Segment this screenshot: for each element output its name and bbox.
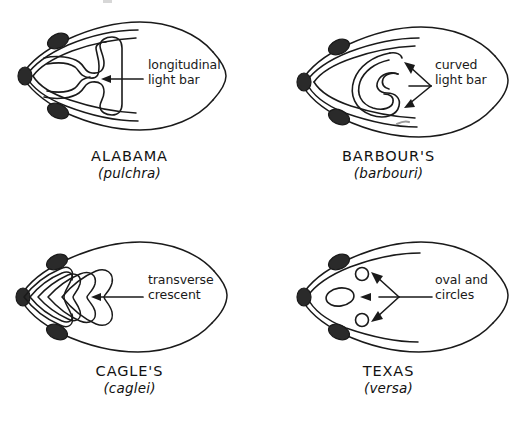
alabama-head-figure bbox=[0, 0, 259, 216]
annotation-line-2: crescent bbox=[148, 287, 201, 302]
common-name-cagles: CAGLE'S bbox=[0, 363, 259, 379]
barbours-head-figure bbox=[259, 0, 518, 216]
head-inner-upper bbox=[307, 253, 420, 297]
annotation-line-2: light bar bbox=[148, 72, 200, 87]
common-name-barbours: BARBOUR'S bbox=[259, 148, 518, 164]
snout-tip-blob bbox=[16, 288, 30, 306]
snout-tip-blob bbox=[297, 73, 311, 91]
latin-name-barbours: (barbouri) bbox=[259, 165, 518, 181]
annotation-arrow-double bbox=[404, 62, 431, 108]
annotation-alabama: longitudinal light bar bbox=[148, 58, 221, 88]
annotation-line-1: oval and bbox=[435, 272, 488, 287]
upper-circle bbox=[356, 268, 369, 281]
panel-alabama: longitudinal light bar bbox=[0, 0, 259, 216]
common-name-texas: TEXAS bbox=[259, 363, 518, 379]
eye-lower bbox=[326, 321, 352, 343]
secondary-flick-mark bbox=[397, 122, 409, 124]
head-outline-rear bbox=[493, 56, 508, 108]
latin-name-cagles: (caglei) bbox=[0, 380, 259, 396]
caption-texas: TEXAS (versa) bbox=[259, 363, 518, 396]
annotation-line-2: light bar bbox=[435, 72, 487, 87]
caption-alabama: ALABAMA (pulchra) bbox=[0, 148, 259, 181]
head-outline-lower bbox=[301, 297, 493, 352]
common-name-alabama: ALABAMA bbox=[0, 148, 259, 164]
panel-barbours: curved light bar bbox=[259, 0, 518, 216]
panel-texas: oval and circles bbox=[259, 217, 518, 433]
head-outline-rear bbox=[212, 271, 227, 323]
eye-lower bbox=[326, 106, 352, 128]
panel-cagles: transverse crescent bbox=[0, 217, 259, 433]
eye-blobs bbox=[297, 36, 352, 128]
lower-circle bbox=[356, 314, 369, 327]
annotation-line-1: transverse bbox=[148, 272, 214, 287]
snout-tip-blob bbox=[297, 288, 311, 306]
head-outline-rear bbox=[493, 271, 508, 323]
annotation-line-2: circles bbox=[435, 287, 474, 302]
annotation-line-1: curved bbox=[435, 57, 477, 72]
annotation-arrow-single bbox=[91, 293, 143, 301]
latin-name-texas: (versa) bbox=[259, 380, 518, 396]
annotation-line-1: longitudinal bbox=[148, 57, 221, 72]
snout-tip-blob bbox=[18, 67, 32, 85]
head-outline-lower bbox=[20, 297, 212, 352]
eye-blobs bbox=[297, 251, 352, 343]
annotation-cagles: transverse crescent bbox=[148, 273, 214, 303]
annotation-arrow-triple bbox=[360, 272, 432, 322]
annotation-texas: oval and circles bbox=[435, 273, 488, 303]
caption-cagles: CAGLE'S (caglei) bbox=[0, 363, 259, 396]
caption-barbours: BARBOUR'S (barbouri) bbox=[259, 148, 518, 181]
eye-blobs bbox=[18, 30, 71, 122]
cagles-head-figure bbox=[0, 217, 259, 433]
latin-name-alabama: (pulchra) bbox=[0, 165, 259, 181]
curved-light-bar-marking bbox=[352, 53, 402, 117]
head-inner-lower bbox=[306, 82, 417, 127]
turtle-head-pattern-plate: longitudinal light bar ALABAMA (pulchra) bbox=[0, 0, 518, 433]
annotation-barbours: curved light bar bbox=[435, 58, 487, 88]
texas-head-figure bbox=[259, 217, 518, 433]
head-inner-lower bbox=[307, 297, 418, 342]
central-oval bbox=[325, 286, 355, 308]
